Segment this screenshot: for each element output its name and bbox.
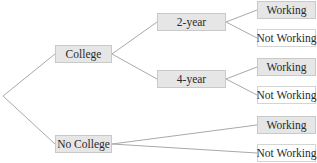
- node-no-college: No College: [55, 135, 112, 153]
- edge-root-to-college: [3, 54, 55, 96]
- edge-no-college-to-no-college-not-working: [112, 144, 257, 153]
- edge-college-to-two-year: [112, 22, 157, 54]
- edge-root-to-no-college: [3, 96, 55, 144]
- edge-four-year-to-four-year-not-working: [226, 79, 257, 95]
- node-no-college-not-working: Not Working: [257, 144, 316, 162]
- edge-no-college-to-no-college-working: [112, 125, 257, 144]
- node-no-college-working: Working: [257, 116, 316, 134]
- edge-college-to-four-year: [112, 54, 157, 79]
- decision-tree-diagram: CollegeNo College2-year4-yearWorkingNot …: [0, 0, 317, 163]
- edge-four-year-to-four-year-working: [226, 67, 257, 79]
- node-two-year-not-working: Not Working: [257, 29, 316, 47]
- node-two-year-working: Working: [257, 1, 316, 19]
- edge-two-year-to-two-year-working: [226, 10, 257, 22]
- node-four-year-working: Working: [257, 58, 316, 76]
- node-four-year-not-working: Not Working: [257, 86, 316, 104]
- edge-two-year-to-two-year-not-working: [226, 22, 257, 38]
- node-four-year: 4-year: [157, 70, 226, 88]
- node-college: College: [55, 45, 112, 63]
- node-two-year: 2-year: [157, 13, 226, 31]
